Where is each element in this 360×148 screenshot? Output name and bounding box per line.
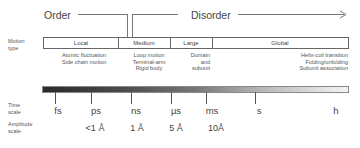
disorder-line-left <box>132 14 178 15</box>
amplitude-label-lt1: <1 Å <box>86 123 105 133</box>
global-description: Helix-coil transition Folding/unfolding … <box>260 52 348 72</box>
order-divider-vertical <box>127 14 128 37</box>
disorder-line-right <box>238 14 344 15</box>
motion-type-local: Local <box>43 37 119 49</box>
order-line <box>78 14 127 15</box>
motion-type-global: Global <box>212 37 349 49</box>
time-scale-row-label: Time scale <box>8 102 21 116</box>
time-gradient-bar <box>42 86 349 93</box>
tick-ms <box>206 92 207 104</box>
motion-type-row-label: Motion type <box>8 38 25 52</box>
tick-fs <box>55 92 56 104</box>
tick-ns <box>131 92 132 104</box>
disorder-label: Disorder <box>191 9 231 21</box>
disorder-divider-vertical <box>132 14 133 37</box>
arrow-right-icon <box>338 10 348 19</box>
time-label-ns: ns <box>131 105 141 116</box>
large-description: Domain and subunit <box>180 52 210 72</box>
time-label-fs: fs <box>54 105 61 116</box>
amplitude-label-1: 1 Å <box>130 123 144 133</box>
amplitude-scale-row-label: Amplitude scale <box>8 121 32 135</box>
time-label-us: µs <box>171 105 181 116</box>
tick-ps <box>91 92 92 104</box>
order-label: Order <box>44 9 71 21</box>
tick-us <box>171 92 172 104</box>
motion-type-large: Large <box>170 37 213 49</box>
amplitude-label-10: 10Å <box>208 123 224 133</box>
medium-description: Loop motion Terminal-arm Rigid body <box>124 52 174 72</box>
time-label-s: s <box>257 105 262 116</box>
time-label-ms: ms <box>206 105 219 116</box>
local-description: Atomic fluctuation Side chain motion <box>62 52 106 65</box>
tick-s <box>255 92 256 104</box>
motion-type-medium: Medium <box>118 37 171 49</box>
time-label-ps: ps <box>91 105 101 116</box>
amplitude-label-5: 5 Å <box>169 123 183 133</box>
time-label-h: h <box>333 105 338 116</box>
